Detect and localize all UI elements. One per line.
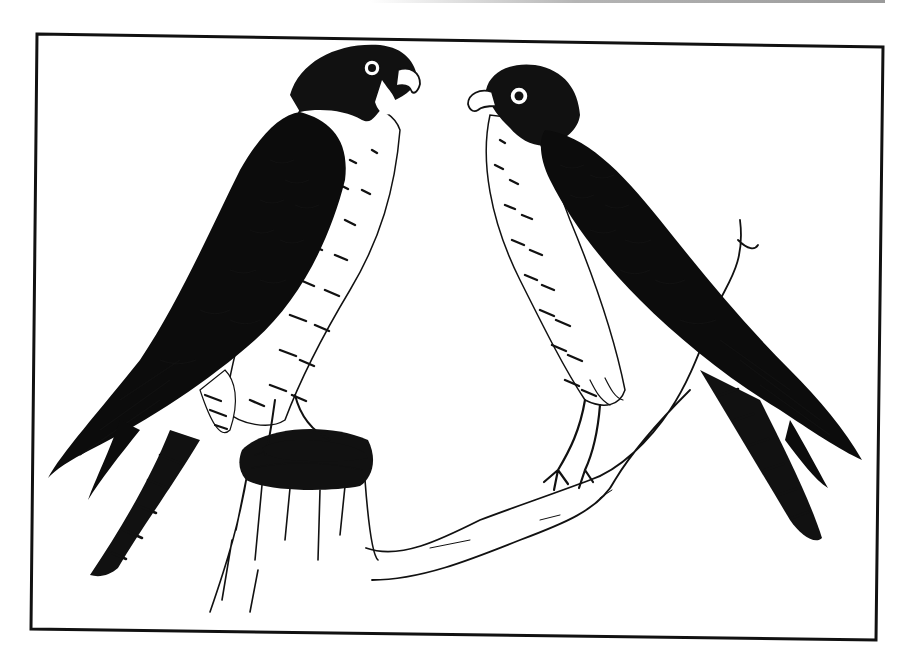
falcon-illustration	[0, 0, 908, 665]
right-falcon	[468, 64, 862, 540]
left-falcon	[48, 45, 420, 576]
